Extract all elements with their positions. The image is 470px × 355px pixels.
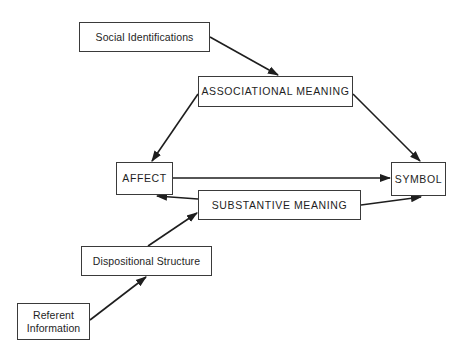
edge-social-to-associational bbox=[210, 37, 278, 75]
node-label: Referent Information bbox=[27, 309, 81, 335]
node-label: Dispositional Structure bbox=[93, 255, 200, 268]
edge-substantive-to-affect bbox=[157, 196, 198, 199]
edge-associational-to-symbol bbox=[353, 94, 420, 161]
node-symbol: SYMBOL bbox=[391, 162, 446, 196]
node-associational-meaning: ASSOCIATIONAL MEANING bbox=[198, 76, 353, 107]
node-label: SUBSTANTIVE MEANING bbox=[212, 199, 347, 212]
node-referent-information: Referent Information bbox=[17, 303, 90, 340]
node-label: SYMBOL bbox=[395, 173, 442, 186]
node-label: AFFECT bbox=[122, 172, 166, 185]
edge-substantive-to-symbol bbox=[361, 197, 421, 205]
edge-referent-to-dispositional bbox=[90, 277, 146, 320]
edge-dispositional-to-substantive bbox=[148, 213, 197, 246]
node-substantive-meaning: SUBSTANTIVE MEANING bbox=[198, 190, 361, 220]
node-dispositional-structure: Dispositional Structure bbox=[81, 246, 212, 276]
node-label: Social Identifications bbox=[96, 31, 194, 44]
node-social-identifications: Social Identifications bbox=[79, 22, 210, 52]
edge-associational-to-affect bbox=[152, 94, 198, 161]
node-label: ASSOCIATIONAL MEANING bbox=[202, 85, 350, 98]
node-affect: AFFECT bbox=[116, 162, 173, 195]
